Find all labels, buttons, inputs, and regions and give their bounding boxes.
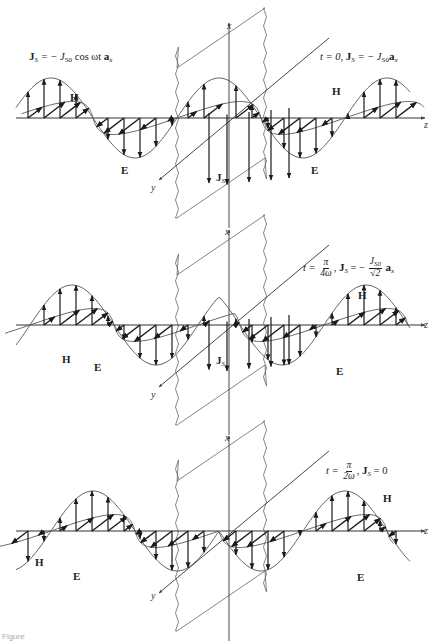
h-field-label: H (70, 92, 79, 103)
x-axis-label: x (225, 433, 229, 443)
e-field-label: E (121, 165, 128, 176)
panel-t-0 (16, 8, 425, 228)
h-field-arrow (243, 325, 252, 332)
h-field-arrow (108, 321, 113, 325)
z-axis-label: z (424, 120, 428, 130)
h-field-arrow (97, 118, 108, 127)
e-field-label: E (73, 571, 80, 582)
y-axis-label: y (151, 591, 155, 601)
z-axis-label: z (424, 320, 428, 330)
surface-current-label: JS (216, 355, 225, 368)
z-axis-label: z (424, 526, 428, 536)
figure-caption: Figure (2, 632, 25, 641)
h-field-arrow (364, 107, 378, 118)
h-field-arrow (223, 531, 236, 541)
h-field-label: H (332, 86, 341, 97)
panel-t-pi-over-2-omega (0, 421, 425, 641)
h-field-arrow (268, 118, 284, 131)
h-field-arrow (44, 317, 55, 325)
y-axis-label: y (151, 390, 155, 400)
h-field-arrow (122, 325, 140, 339)
e-field-label: E (336, 366, 343, 377)
h-field-arrow (322, 118, 332, 126)
h-field-arrow (92, 313, 108, 325)
e-field-label: E (311, 165, 318, 176)
h-field-arrow (116, 325, 124, 331)
h-field-arrow (232, 531, 252, 547)
h-field-arrow (141, 118, 156, 130)
h-field-arrow (396, 318, 405, 325)
h-field-arrow (364, 518, 380, 531)
e-field-label: E (94, 362, 101, 373)
source-current-equation: JS = − JS0 cos ωt ax (29, 51, 112, 64)
h-field-arrow (396, 102, 416, 118)
h-field-label: H (383, 493, 392, 504)
time-label-t-pi-4w: t = π4ω, JS = − JS0√2 ax (303, 257, 394, 279)
h-field-arrow (236, 105, 253, 118)
time-label-t0: t = 0, JS = − JS0ax (320, 51, 398, 64)
y-axis (159, 38, 329, 180)
h-field-label: H (35, 557, 44, 568)
current-sheet (176, 8, 267, 218)
y-axis-label: y (151, 183, 155, 193)
e-field-label: E (357, 572, 364, 583)
x-axis-label: x (225, 227, 229, 237)
y-axis (159, 451, 329, 593)
h-field-label: H (358, 290, 367, 301)
h-field-arrow (104, 118, 124, 133)
h-field-arrow (141, 531, 156, 543)
h-field-arrow (60, 102, 80, 118)
h-field-label: H (62, 354, 71, 365)
h-field-arrow (380, 527, 386, 531)
current-sheet-plane-wave-diagram (0, 0, 443, 644)
time-label-t-pi-2w: t = π2ω, JS = 0 (326, 461, 387, 482)
h-field-arrow (389, 531, 396, 536)
h-field-arrow (252, 113, 259, 118)
panel-t-pi-over-4-omega (5, 215, 425, 435)
h-field-arrow (270, 531, 284, 542)
h-field-arrow (193, 531, 204, 540)
surface-current-label: JS (216, 172, 225, 185)
h-field-arrow (76, 108, 89, 118)
x-axis-label: x (227, 21, 231, 31)
current-sheet (176, 421, 267, 631)
h-field-arrow (28, 107, 42, 118)
h-field-arrow (124, 524, 133, 531)
h-field-arrow (316, 523, 326, 531)
current-sheet (176, 215, 267, 425)
